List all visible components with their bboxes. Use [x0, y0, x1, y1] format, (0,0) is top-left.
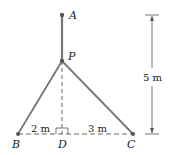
- label-D: D: [57, 138, 67, 151]
- point-A: [60, 13, 64, 17]
- label-A: A: [68, 9, 77, 22]
- point-C: [131, 132, 135, 136]
- cable-diagram: A P B D C 2 m 3 m 5 m: [0, 0, 170, 155]
- label-C: C: [127, 138, 136, 151]
- point-B: [16, 132, 20, 136]
- dim-height: 5 m: [143, 72, 163, 83]
- dim-BD: 2 m: [31, 123, 51, 134]
- point-P: [60, 59, 64, 63]
- right-angle-icon: [56, 128, 62, 134]
- dim-DC: 3 m: [88, 123, 108, 134]
- label-B: B: [11, 138, 20, 151]
- arrow-down-icon: [150, 128, 154, 133]
- label-P: P: [67, 50, 76, 63]
- arrow-up-icon: [150, 16, 154, 21]
